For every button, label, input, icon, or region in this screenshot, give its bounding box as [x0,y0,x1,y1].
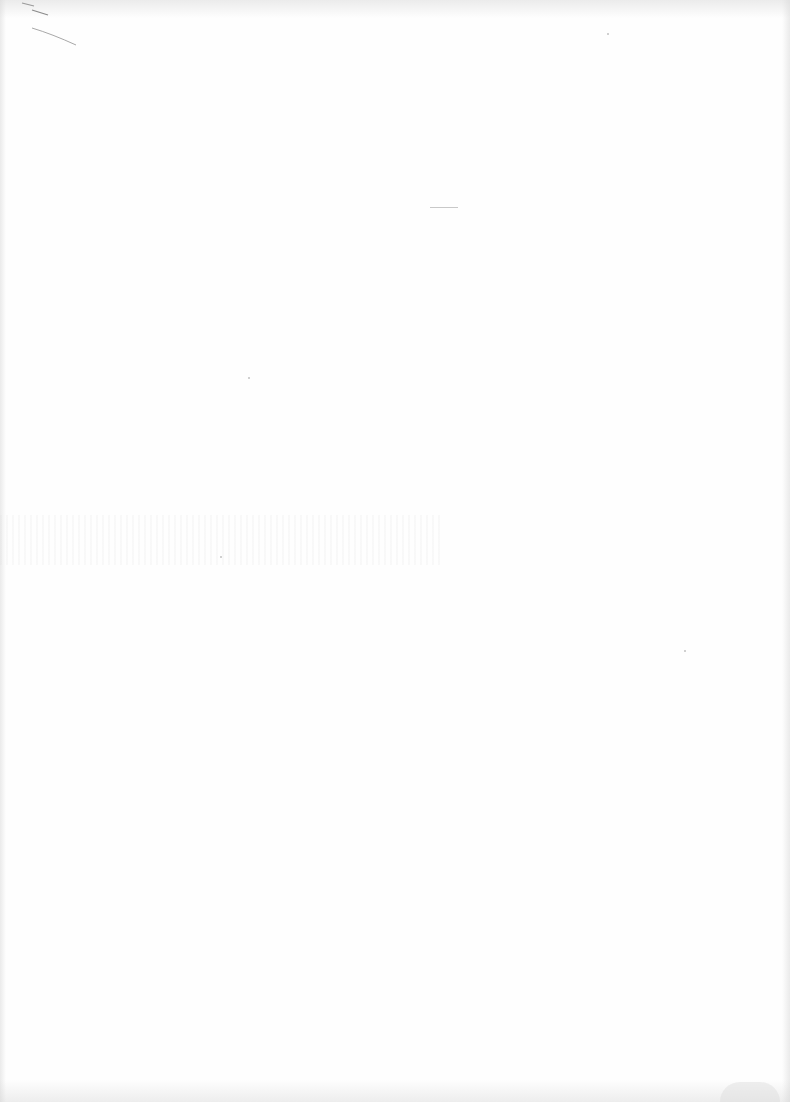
faint-pen-strokes [0,0,120,60]
faint-horizontal-mark [430,207,458,208]
scan-noise-bottom-edge [0,1080,790,1102]
scan-speck [220,556,222,558]
scan-speck [248,377,250,379]
scan-speck [607,33,609,35]
blank-scanned-page [0,0,790,1102]
scan-shadow-right-edge [782,0,790,1102]
scan-speck [684,650,686,652]
corner-smudge [720,1082,780,1102]
